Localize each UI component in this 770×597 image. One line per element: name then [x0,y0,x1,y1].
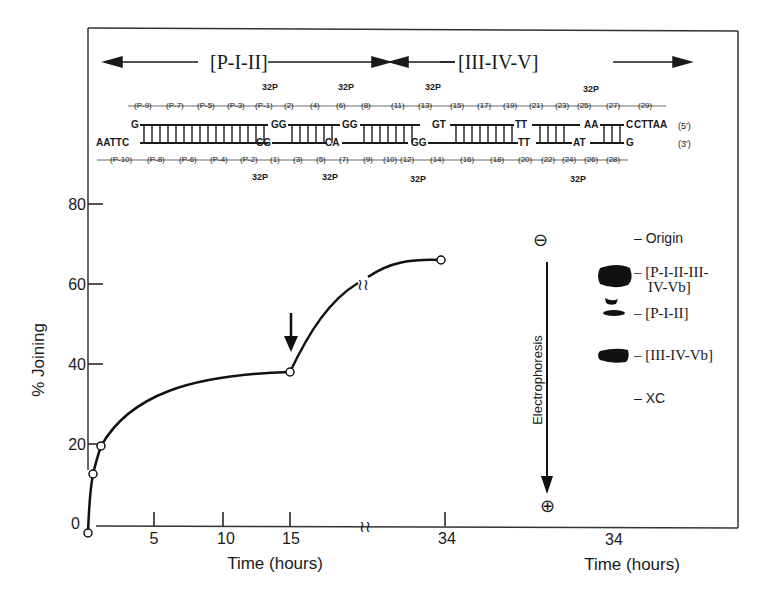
svg-text:(P-3): (P-3) [227,101,245,110]
svg-text:(P-9): (P-9) [134,101,152,110]
svg-text:32P: 32P [322,172,338,182]
svg-text:– [P-I-II]: – [P-I-II] [633,305,689,321]
x-axis-break: ≀≀ [359,518,371,535]
svg-text:(24): (24) [562,155,577,164]
electrophoresis-label: Electrophoresis [530,335,545,425]
svg-text:(6): (6) [336,101,346,110]
svg-text:(20): (20) [518,155,533,164]
p32-bottom-labels: 32P 32P 32P 32P [252,172,586,184]
gel-x-label: Time (hours) [584,555,680,574]
svg-text:CTTAA: CTTAA [634,119,667,130]
addition-arrow-icon [284,313,298,352]
svg-text:(9): (9) [363,155,373,164]
svg-text:32P: 32P [262,82,278,92]
svg-text:AA: AA [584,119,598,130]
svg-text:80: 80 [68,196,86,213]
anode-plus-icon: ⊕ [540,496,555,516]
svg-text:– [P-I-II-III-: – [P-I-II-III- [633,264,709,280]
svg-text:(17): (17) [477,101,492,110]
gel-band-labels: – Origin – [P-I-II-III- IV-Vb] – [P-I-II… [633,230,713,406]
svg-text:GG: GG [411,137,427,148]
svg-text:(21): (21) [529,101,544,110]
svg-text:TT: TT [518,137,530,148]
segment-label-p-i-ii: [P-I-II] [210,51,268,73]
svg-text:32P: 32P [338,82,354,92]
svg-text:(5): (5) [316,155,326,164]
svg-text:60: 60 [68,276,86,293]
svg-text:TT: TT [515,119,527,130]
svg-text:20: 20 [68,436,86,453]
svg-text:GT: GT [432,119,446,130]
segment-label-iii-iv-v: [III-IV-V] [458,51,538,73]
svg-text:AT: AT [573,137,586,148]
svg-text:(3): (3) [293,155,303,164]
svg-text:32P: 32P [252,172,268,182]
three-prime-label: (3') [678,139,691,149]
svg-text:32P: 32P [583,84,599,94]
svg-text:(7): (7) [339,155,349,164]
y-axis [88,204,103,444]
svg-text:34: 34 [438,530,456,547]
svg-text:40: 40 [68,356,86,373]
svg-text:(18): (18) [490,155,505,164]
curve-break: ≀≀ [357,276,369,293]
svg-text:(12): (12) [400,155,415,164]
svg-text:(P-8): (P-8) [147,155,165,164]
svg-text:(P-10): (P-10) [110,155,133,164]
svg-text:– [III-IV-Vb]: – [III-IV-Vb] [633,347,713,363]
svg-text:(29): (29) [638,101,653,110]
svg-text:IV-Vb]: IV-Vb] [648,279,691,295]
svg-text:(27): (27) [606,101,621,110]
svg-text:(8): (8) [361,101,371,110]
cathode-minus-icon: ⊖ [533,230,548,250]
svg-text:(P-6): (P-6) [179,155,197,164]
svg-text:5: 5 [150,530,159,547]
svg-text:GG: GG [342,119,358,130]
svg-text:10: 10 [217,530,235,547]
svg-text:(23): (23) [555,101,570,110]
y-axis-label: % Joining [29,323,48,397]
svg-text:(P-7): (P-7) [166,101,184,110]
svg-text:AATTC: AATTC [96,137,129,148]
svg-text:(P-5): (P-5) [197,101,215,110]
svg-text:C: C [626,119,633,130]
svg-text:(22): (22) [541,155,556,164]
svg-text:G: G [131,119,139,130]
svg-text:15: 15 [282,530,300,547]
y-tick-labels: 80 60 40 20 0 [68,196,86,532]
svg-text:32P: 32P [570,174,586,184]
svg-text:(P-1): (P-1) [255,101,273,110]
p32-top-labels: 32P 32P 32P 32P [262,82,599,94]
svg-text:CA: CA [325,137,339,148]
svg-text:(28): (28) [606,155,621,164]
segment-arrows [104,57,691,67]
svg-text:(1): (1) [270,155,280,164]
svg-text:(15): (15) [450,101,465,110]
svg-text:(P-4): (P-4) [210,155,228,164]
svg-text:(26): (26) [584,155,599,164]
data-points [84,256,445,537]
svg-text:(4): (4) [310,101,320,110]
svg-text:0: 0 [71,515,80,532]
joining-curve [88,260,441,533]
svg-text:(13): (13) [418,101,433,110]
svg-text:(14): (14) [430,155,445,164]
dna-duplex: AATTC G CG GG CA GG GG GT TT TT [96,119,691,149]
svg-text:(16): (16) [460,155,475,164]
svg-text:32P: 32P [410,174,426,184]
x-tick-labels: 5 10 15 34 [150,530,456,547]
top-strand-oligos: (P-9) (P-7) (P-5) (P-3) (P-1) (2) (4) (6… [128,101,666,110]
svg-text:(11): (11) [391,101,405,110]
svg-text:– Origin: – Origin [634,230,683,246]
figure-canvas: [P-I-II] [III-IV-V] 32P 32P 32P 32P (P-9… [0,0,770,597]
five-prime-label: (5') [678,121,691,131]
svg-text:CG: CG [256,137,271,148]
svg-text:(P-2): (P-2) [240,155,258,164]
svg-text:(19): (19) [503,101,518,110]
svg-text:– XC: – XC [634,390,665,406]
x-axis [154,512,445,526]
x-axis-label: Time (hours) [227,554,323,573]
svg-text:G: G [626,137,634,148]
svg-text:GG: GG [271,119,287,130]
gel-time-tick: 34 [605,531,623,548]
